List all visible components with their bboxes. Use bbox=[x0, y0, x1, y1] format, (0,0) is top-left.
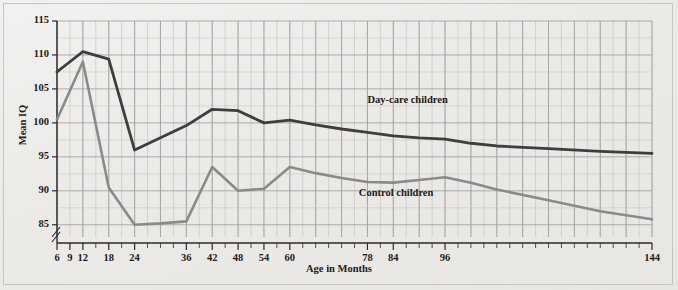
y-axis-ticks bbox=[52, 21, 57, 225]
y-tick-label-100: 100 bbox=[33, 116, 49, 127]
x-tick-label-78: 78 bbox=[362, 252, 373, 263]
series-label-control: Control children bbox=[359, 187, 434, 198]
x-tick-label-96: 96 bbox=[440, 252, 451, 263]
x-axis-ticks bbox=[57, 243, 652, 250]
y-tick-label-105: 105 bbox=[33, 82, 49, 93]
x-tick-label-6: 6 bbox=[54, 252, 59, 263]
y-tick-label-85: 85 bbox=[39, 218, 50, 229]
x-tick-label-54: 54 bbox=[259, 252, 270, 263]
y-axis-tick-labels: 115110105100959085 bbox=[33, 14, 49, 229]
x-tick-label-36: 36 bbox=[181, 252, 192, 263]
chart-canvas: 115110105100959085 691218243642485460788… bbox=[0, 0, 678, 290]
x-tick-label-144: 144 bbox=[644, 252, 661, 263]
x-tick-label-60: 60 bbox=[285, 252, 296, 263]
series-label-daycare: Day-care children bbox=[367, 94, 448, 105]
x-tick-label-12: 12 bbox=[78, 252, 89, 263]
x-tick-label-24: 24 bbox=[129, 252, 140, 263]
iq-line-chart: 115110105100959085 691218243642485460788… bbox=[0, 0, 678, 290]
y-tick-label-110: 110 bbox=[34, 48, 49, 59]
y-tick-label-115: 115 bbox=[34, 14, 49, 25]
x-axis-tick-labels: 691218243642485460788496144 bbox=[54, 252, 660, 263]
figure-page: 115110105100959085 691218243642485460788… bbox=[0, 0, 678, 290]
x-axis-title: Age in Months bbox=[306, 263, 372, 274]
y-axis-break-icon bbox=[52, 227, 60, 242]
x-tick-label-42: 42 bbox=[207, 252, 218, 263]
y-tick-label-90: 90 bbox=[39, 184, 50, 195]
y-tick-label-95: 95 bbox=[39, 150, 50, 161]
x-tick-label-84: 84 bbox=[388, 252, 399, 263]
y-axis-title: Mean IQ bbox=[17, 105, 28, 146]
x-tick-label-9: 9 bbox=[67, 252, 72, 263]
x-tick-label-18: 18 bbox=[103, 252, 114, 263]
x-tick-label-48: 48 bbox=[233, 252, 244, 263]
